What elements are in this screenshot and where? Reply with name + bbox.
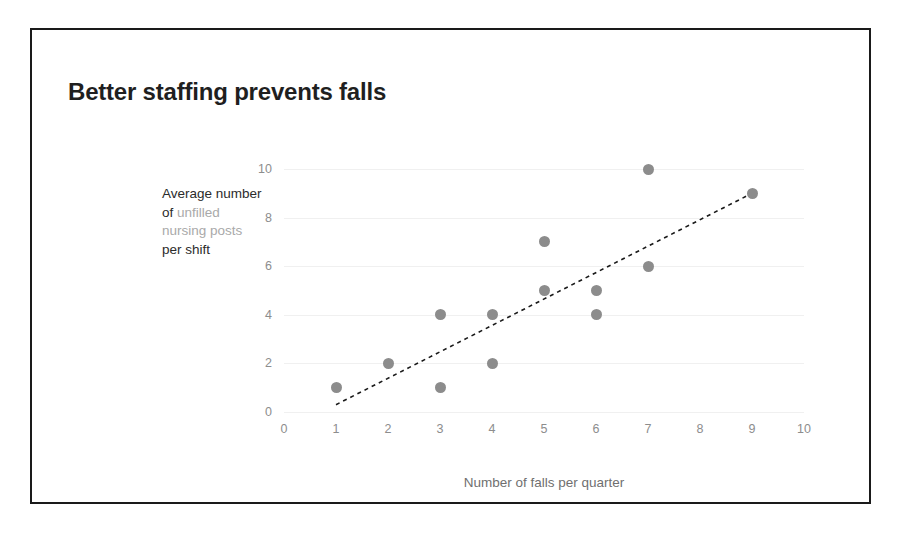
y-axis-tick-label: 4: [265, 308, 272, 322]
y-axis-title-highlight-nursing-posts: nursing posts: [162, 223, 242, 238]
data-point: [539, 285, 550, 296]
x-axis-tick-label: 5: [541, 422, 548, 436]
gridline: [284, 412, 804, 413]
y-axis-title-line1: Average number: [162, 186, 262, 201]
data-point: [435, 309, 446, 320]
x-axis-tick-label: 10: [797, 422, 811, 436]
data-point: [591, 285, 602, 296]
y-axis-title-highlight-unfilled: unfilled: [177, 205, 220, 220]
y-axis-tick-label: 0: [265, 405, 272, 419]
x-axis-tick-label: 1: [333, 422, 340, 436]
y-axis-tick-label: 2: [265, 356, 272, 370]
y-axis-tick-label: 10: [258, 162, 272, 176]
y-axis-title-line2-prefix: of: [162, 205, 177, 220]
y-axis-title: Average number of unfilled nursing posts…: [162, 185, 280, 259]
x-axis-title: Number of falls per quarter: [284, 475, 804, 490]
x-axis-tick-label: 7: [645, 422, 652, 436]
scatter-plot-area: 0246810 012345678910: [284, 169, 804, 412]
y-axis-title-line4: per shift: [162, 242, 210, 257]
x-axis-tick-label: 9: [749, 422, 756, 436]
data-point: [747, 188, 758, 199]
y-axis-tick-label: 8: [265, 211, 272, 225]
data-point: [435, 382, 446, 393]
page-title: Better staffing prevents falls: [68, 78, 386, 106]
x-axis-tick-label: 3: [437, 422, 444, 436]
data-point: [383, 358, 394, 369]
data-point: [591, 309, 602, 320]
data-point: [539, 236, 550, 247]
y-axis-tick-label: 6: [265, 259, 272, 273]
data-point: [643, 261, 654, 272]
x-axis-tick-label: 2: [385, 422, 392, 436]
slide-frame: Better staffing prevents falls Average n…: [30, 28, 871, 504]
x-axis-tick-label: 0: [281, 422, 288, 436]
x-axis-tick-label: 6: [593, 422, 600, 436]
data-point: [643, 164, 654, 175]
x-axis-tick-label: 8: [697, 422, 704, 436]
data-point: [487, 358, 498, 369]
x-axis-tick-label: 4: [489, 422, 496, 436]
data-point: [487, 309, 498, 320]
data-point: [331, 382, 342, 393]
